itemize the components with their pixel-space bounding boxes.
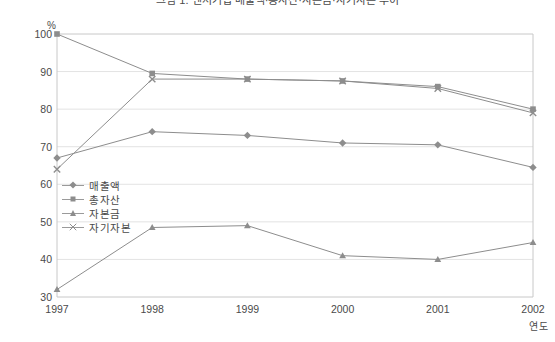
- data-point-marker: [339, 139, 346, 146]
- legend-label: 매출액: [89, 178, 121, 193]
- data-point-marker: [149, 128, 156, 135]
- chart-title: 그림 1. 벤처기업 매출액·총자산·자본금·자기자본 추이: [0, 0, 555, 6]
- y-axis-tick: 100: [0, 28, 52, 40]
- legend-item-2: 총자산: [62, 192, 131, 206]
- data-point-marker: [149, 71, 155, 77]
- y-axis-tick: 70: [0, 141, 52, 153]
- x-axis-title: 연도: [529, 318, 549, 333]
- legend-line-swatch: [62, 213, 84, 214]
- data-point-marker: [54, 31, 60, 37]
- data-point-marker: [54, 286, 61, 292]
- legend-marker-triangle-icon: [70, 210, 76, 216]
- legend-line-swatch: [62, 185, 84, 186]
- series-line: [57, 132, 533, 168]
- data-point-marker: [529, 164, 536, 171]
- line-chart: 그림 1. 벤처기업 매출액·총자산·자본금·자기자본 추이 % 1009080…: [0, 0, 555, 342]
- y-axis-tick: 40: [0, 253, 52, 265]
- legend-marker-diamond-icon: [69, 181, 76, 188]
- chart-legend: 매출액총자산자본금자기자본: [62, 178, 131, 234]
- x-axis-tick: 2000: [331, 303, 354, 315]
- y-axis-tick: 30: [0, 291, 52, 303]
- legend-item-1: 매출액: [62, 178, 131, 192]
- series-line: [57, 226, 533, 290]
- legend-label: 자기자본: [89, 220, 131, 235]
- legend-line-swatch: [62, 199, 84, 200]
- y-axis-tick: 90: [0, 66, 52, 78]
- y-axis-tick: 80: [0, 103, 52, 115]
- legend-item-3: 자본금: [62, 206, 131, 220]
- data-point-marker: [244, 132, 251, 139]
- data-point-marker: [53, 154, 60, 161]
- x-axis-tick: 2001: [426, 303, 449, 315]
- legend-marker-x-icon: [70, 224, 77, 231]
- x-axis-tick: 1998: [141, 303, 164, 315]
- x-axis-tick: 2002: [521, 303, 544, 315]
- legend-line-swatch: [62, 227, 84, 228]
- y-axis-tick: 50: [0, 216, 52, 228]
- data-point-marker: [530, 239, 537, 245]
- x-axis-tick: 1997: [45, 303, 68, 315]
- x-axis-tick: 1999: [236, 303, 259, 315]
- y-axis-tick: 60: [0, 178, 52, 190]
- plot-area: [0, 0, 555, 342]
- legend-label: 총자산: [89, 192, 121, 207]
- legend-marker-square-icon: [71, 197, 76, 202]
- legend-label: 자본금: [89, 206, 121, 221]
- legend-item-4: 자기자본: [62, 220, 131, 234]
- data-point-marker: [434, 141, 441, 148]
